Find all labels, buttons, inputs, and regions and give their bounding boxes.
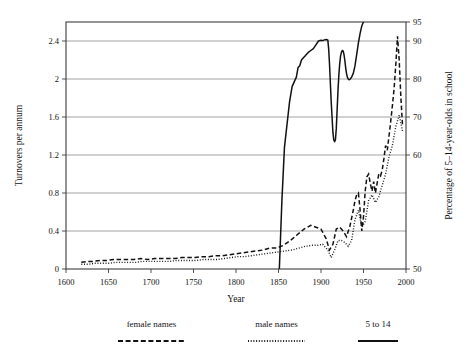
y-tick-label: 0.4	[48, 226, 59, 236]
line-chart: 00.40.81.21.622.450607080909516001650170…	[0, 0, 475, 357]
y2-axis-label: Percentage of 5–14-year-olds in school	[444, 71, 454, 220]
x-tick-label: 1800	[228, 277, 245, 287]
y-tick-label: 1.6	[48, 112, 59, 122]
chart-figure: 00.40.81.21.622.450607080909516001650170…	[0, 0, 475, 357]
x-tick-label: 1950	[355, 277, 372, 287]
legend-label-0: female names	[127, 319, 177, 329]
x-tick-label: 1850	[270, 277, 287, 287]
legend-label-1: male names	[255, 319, 298, 329]
x-axis-label: Year	[227, 294, 245, 304]
series-5-to-14	[279, 22, 363, 269]
y-tick-label: 1.2	[48, 150, 59, 160]
y2-tick-label: 95	[413, 17, 422, 27]
x-tick-label: 1900	[313, 277, 330, 287]
y-tick-label: 0.8	[48, 188, 59, 198]
y2-tick-label: 60	[413, 150, 422, 160]
plot-frame	[66, 22, 406, 269]
y2-tick-label: 90	[413, 36, 422, 46]
y2-tick-label: 80	[413, 74, 422, 84]
y-tick-label: 2.4	[48, 36, 59, 46]
y-tick-label: 2	[55, 74, 59, 84]
y-tick-label: 0	[55, 264, 59, 274]
y2-tick-label: 70	[413, 112, 422, 122]
legend-label-2: 5 to 14	[365, 319, 391, 329]
x-tick-label: 1650	[100, 277, 117, 287]
x-tick-label: 1750	[185, 277, 202, 287]
y-axis-label: Turnovers per annum	[14, 104, 24, 186]
x-tick-label: 1700	[143, 277, 160, 287]
y2-tick-label: 50	[413, 264, 422, 274]
series-male-names	[81, 115, 402, 264]
x-tick-label: 1600	[58, 277, 75, 287]
x-tick-label: 2000	[398, 277, 415, 287]
